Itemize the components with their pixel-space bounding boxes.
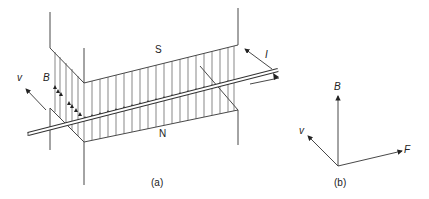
south-pole	[50, 8, 238, 83]
conductor	[28, 70, 278, 136]
v-vector	[308, 136, 338, 166]
south-pole-label: S	[155, 45, 162, 55]
v-vector-label: v	[299, 126, 304, 136]
caption-b: (b)	[334, 178, 346, 188]
north-pole-label: N	[159, 129, 166, 139]
velocity-arrow	[26, 89, 46, 110]
f-vector	[338, 151, 402, 166]
motor-principle-diagram	[0, 0, 429, 199]
velocity-label: v	[17, 73, 22, 83]
current-label: I	[265, 50, 268, 60]
vector-diagram	[308, 96, 402, 166]
field-label: B	[43, 73, 50, 83]
magnetic-field-lines	[55, 46, 234, 142]
b-vector-label: B	[334, 82, 341, 92]
f-vector-label: F	[404, 145, 410, 155]
field-arrowheads	[53, 80, 230, 120]
caption-a: (a)	[151, 178, 163, 188]
